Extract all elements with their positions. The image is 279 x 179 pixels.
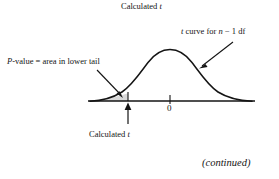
distribution-plot	[0, 0, 279, 179]
t-curve-arrow	[199, 42, 233, 69]
t-distribution-curve	[90, 50, 252, 102]
p-value-arrow	[97, 70, 123, 98]
calculated-t-arrow	[125, 103, 132, 125]
figure-canvas: Calculated t t curve for n − 1 df P-valu…	[0, 0, 279, 179]
